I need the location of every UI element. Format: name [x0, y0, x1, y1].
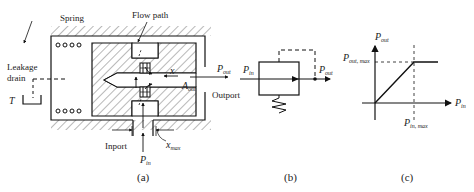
label-y-tick: Pout, max	[342, 52, 370, 64]
characteristic-curve	[375, 62, 438, 103]
label-leakage: Leakage	[7, 62, 37, 72]
label-outport: Outport	[212, 90, 240, 100]
label-spring: Spring	[60, 13, 85, 23]
housing-bottom-hatch	[51, 120, 211, 130]
label-inport: Inport	[105, 141, 127, 151]
panel-a-valve-cross-section: Spring Flow path Leakage drain T x Aout …	[7, 10, 240, 184]
label-flow-path: Flow path	[132, 10, 169, 20]
label-p-in: Pin	[139, 154, 151, 166]
label-drain: drain	[7, 73, 26, 83]
spring-coils-upper	[56, 43, 81, 47]
label-tank: T	[9, 95, 16, 106]
figure-canvas: Spring Flow path Leakage drain T x Aout …	[0, 0, 474, 192]
label-y-axis: Pout	[374, 31, 389, 43]
caption-c: (c)	[401, 171, 414, 184]
spring-coils-lower	[56, 109, 81, 113]
label-x: x	[169, 65, 175, 76]
caption-b: (b)	[284, 171, 297, 184]
label-b-p-in: Pin	[242, 64, 254, 76]
label-x-max: xmax	[165, 139, 181, 151]
tank-symbol	[23, 95, 41, 104]
label-b-p-out: Pout	[318, 64, 333, 76]
caption-a: (a)	[137, 171, 150, 184]
panel-b-valve-symbol: Pin Pout (b)	[240, 50, 333, 184]
label-p-out: Pout	[216, 63, 231, 75]
panel-c-characteristic-chart: Pout Pin Pout, max Pin, max (c)	[342, 31, 466, 184]
housing-top-hatch	[51, 26, 211, 36]
label-x-axis: Pin	[454, 97, 466, 109]
spring-symbol	[272, 95, 286, 113]
label-x-tick: Pin, max	[403, 117, 428, 129]
